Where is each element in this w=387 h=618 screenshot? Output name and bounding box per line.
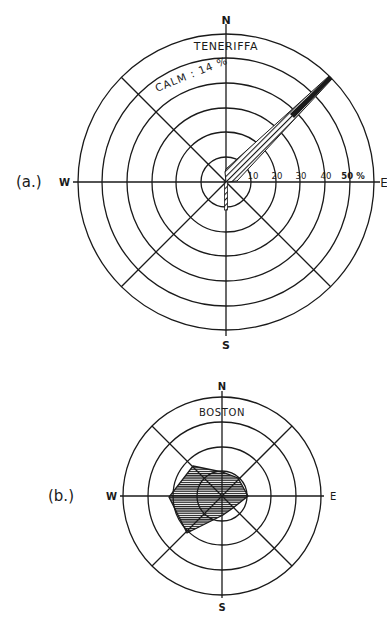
teneriffa-labels: N TENERIFFA CALM : 14 % W E S 10 20 30 4… <box>59 14 387 352</box>
north-label-b: N <box>218 381 226 392</box>
tick-10: 10 <box>248 171 259 181</box>
tick-40: 40 <box>321 171 332 181</box>
south-label-a: S <box>222 339 230 352</box>
chart-title-b: BOSTON <box>199 407 245 418</box>
east-label-b: E <box>330 491 336 502</box>
south-label-b: S <box>218 602 225 613</box>
bar-s <box>225 182 228 210</box>
panel-label-a: (a.) <box>16 173 42 191</box>
wind-rose-figure: N TENERIFFA CALM : 14 % W E S 10 20 30 4… <box>0 0 387 618</box>
panel-label-b: (b.) <box>48 487 74 505</box>
tick-20: 20 <box>272 171 283 181</box>
direction-spokes-b <box>120 391 324 598</box>
wind-rose-teneriffa <box>73 24 380 336</box>
north-label-a: N <box>221 14 230 27</box>
wind-rose-boston <box>120 391 324 598</box>
tick-30: 30 <box>296 171 307 181</box>
tick-50: 50 % <box>341 171 365 181</box>
west-label-a: W <box>59 177 70 188</box>
west-label-b: W <box>106 491 117 502</box>
chart-title-a: TENERIFFA <box>193 40 258 53</box>
east-label-a: E <box>380 176 387 190</box>
